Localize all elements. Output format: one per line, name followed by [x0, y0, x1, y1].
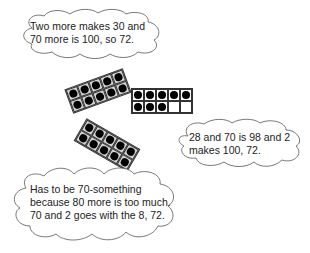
thought-bubble-bottom-left: Has to be 70-something because 80 more i… [8, 166, 180, 244]
counter-dot [72, 100, 82, 110]
bubble-text: Has to be 70-something because 80 more i… [30, 183, 171, 222]
counter-dot [134, 91, 142, 99]
ten-frame-grey-bottom [74, 118, 141, 172]
thought-bubble-right: 28 and 70 is 98 and 2 makes 100, 72. [174, 118, 306, 170]
bubble-line: because 80 more is too much. [30, 196, 171, 209]
bubble-line: 70 and 2 goes with the 8, 72. [30, 209, 171, 222]
counter-dot [170, 91, 178, 99]
bubble-line: Two more makes 30 and [30, 20, 145, 33]
counter-dot [91, 80, 101, 90]
counter-dot [68, 88, 78, 98]
counter-dot [146, 91, 154, 99]
bubble-line: 70 more is 100, so 72. [30, 33, 145, 46]
counter-dot [106, 87, 116, 97]
empty-cell [180, 101, 192, 113]
counter-dot [158, 103, 166, 111]
counter-dot [80, 84, 90, 94]
ten-frame-white-middle [131, 88, 193, 114]
bubble-line: 28 and 70 is 98 and 2 [189, 131, 290, 144]
bubble-text: Two more makes 30 and 70 more is 100, so… [30, 20, 145, 46]
counter-dot [158, 91, 166, 99]
counter-dot [102, 76, 112, 86]
counter-dot [95, 92, 105, 102]
ten-frame-grey-top [64, 68, 131, 114]
bubble-line: Has to be 70-something [30, 183, 171, 196]
counter-dot [134, 103, 142, 111]
counter-dot [84, 96, 94, 106]
counter-dot [117, 83, 127, 93]
counter-dot [182, 91, 190, 99]
counter-dot [113, 72, 123, 82]
bubble-text: 28 and 70 is 98 and 2 makes 100, 72. [189, 131, 290, 157]
thought-bubble-top-left: Two more makes 30 and 70 more is 100, so… [18, 8, 166, 60]
counter-dot [146, 103, 154, 111]
empty-cell [168, 101, 180, 113]
bubble-line: makes 100, 72. [189, 144, 290, 157]
